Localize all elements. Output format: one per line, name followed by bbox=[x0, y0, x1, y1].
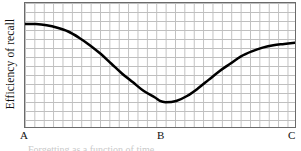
recall-curve-line bbox=[25, 24, 295, 102]
x-axis-point-a: A bbox=[20, 129, 28, 141]
y-axis-label: Efficiency of recall bbox=[4, 19, 16, 110]
recall-curve-svg bbox=[25, 3, 295, 127]
x-axis-point-c: C bbox=[288, 129, 295, 141]
y-axis-label-container: Efficiency of recall bbox=[0, 0, 20, 128]
figure-caption-cropped: Forgetting as a function of time bbox=[28, 144, 278, 151]
figure-root: Efficiency of recall A B C Forgetting as… bbox=[0, 0, 301, 151]
x-axis-point-b: B bbox=[157, 129, 164, 141]
plot-area bbox=[24, 2, 296, 128]
